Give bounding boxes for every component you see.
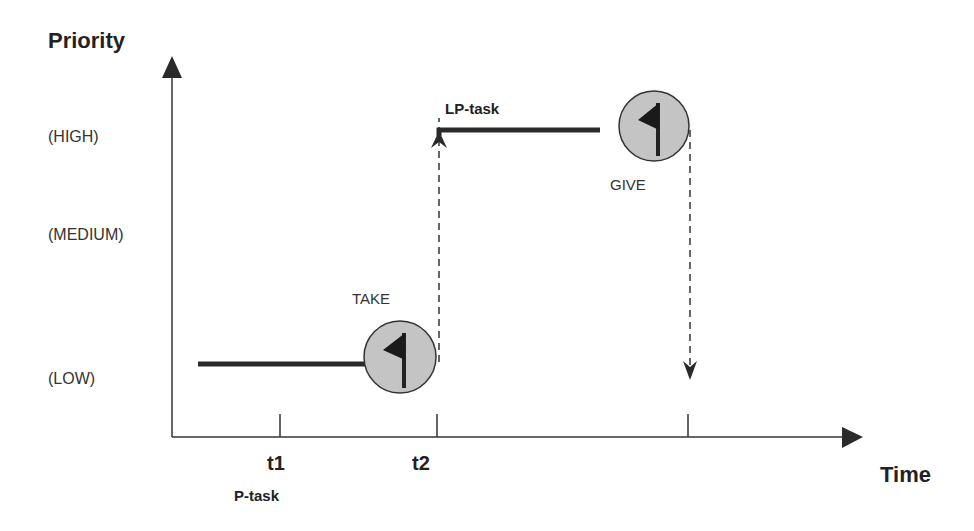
level-medium: (MEDIUM) xyxy=(48,226,124,244)
x-axis-title: Time xyxy=(880,462,931,488)
tick-label-t2: t2 xyxy=(412,452,430,475)
give-label: GIVE xyxy=(610,176,646,193)
x-axis-arrow-icon xyxy=(842,427,863,448)
priority-diagram-canvas xyxy=(0,0,974,531)
p-task-label: P-task xyxy=(234,487,279,504)
y-axis-title: Priority xyxy=(48,28,125,54)
tick-label-t1: t1 xyxy=(267,452,285,475)
priority-raise-arrow xyxy=(431,118,447,362)
priority-drop-arrow xyxy=(683,130,697,380)
x-axis xyxy=(172,414,863,448)
take-label: TAKE xyxy=(352,290,390,307)
take-flag-icon xyxy=(364,321,436,393)
lp-task-label: LP-task xyxy=(445,100,499,117)
level-high: (HIGH) xyxy=(48,128,99,146)
give-flag-icon xyxy=(619,91,689,161)
lp-task-line xyxy=(439,130,600,136)
level-low: (LOW) xyxy=(48,370,95,388)
y-axis xyxy=(162,56,182,437)
y-axis-arrow-icon xyxy=(162,56,182,78)
